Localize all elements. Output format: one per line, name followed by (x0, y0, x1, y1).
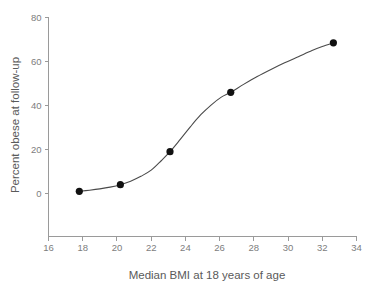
data-point-marker (117, 181, 124, 188)
x-tick-label: 16 (43, 242, 54, 253)
x-tick-label: 24 (180, 242, 191, 253)
data-point-marker (227, 89, 234, 96)
y-tick-label: 20 (31, 144, 42, 155)
x-tick-label: 34 (351, 242, 362, 253)
y-tick-label: 80 (31, 12, 42, 23)
data-point-marker (166, 148, 173, 155)
x-tick-label: 20 (112, 242, 123, 253)
trend-curve (79, 43, 333, 192)
x-tick-label: 22 (146, 242, 157, 253)
y-axis: 020406080 (31, 12, 49, 237)
x-tick-label: 28 (249, 242, 260, 253)
x-axis: 16182022242628303234 (43, 237, 362, 253)
x-tick-label: 18 (77, 242, 88, 253)
chart-figure: 020406080 16182022242628303234 Median BM… (0, 0, 368, 288)
x-tick-label: 30 (283, 242, 294, 253)
plot-area: 020406080 16182022242628303234 Median BM… (0, 0, 368, 288)
y-tick-label: 60 (31, 56, 42, 67)
x-tick-label: 32 (317, 242, 328, 253)
y-axis-title: Percent obese at follow-up (9, 57, 21, 193)
y-tick-label: 0 (36, 188, 41, 199)
data-point-marker (76, 188, 83, 195)
x-axis-title: Median BMI at 18 years of age (129, 269, 286, 281)
x-tick-label: 26 (214, 242, 225, 253)
y-tick-label: 40 (31, 100, 42, 111)
data-point-marker (330, 39, 337, 46)
fit-curve-path (79, 43, 333, 192)
data-points (76, 39, 337, 195)
